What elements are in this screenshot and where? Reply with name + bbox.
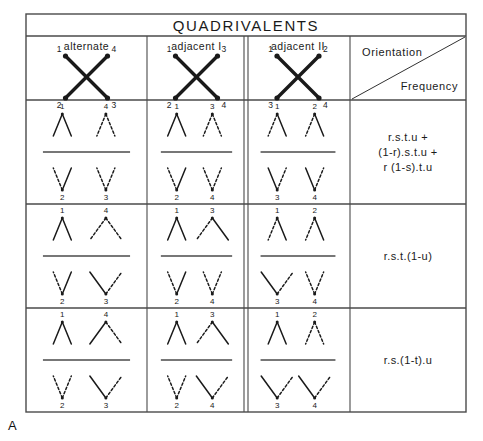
chromosome-number-label: 4 <box>104 206 109 215</box>
chromosome-number-label: 1 <box>60 206 65 215</box>
chromosome-number-label: 1 <box>60 310 65 319</box>
centromere <box>104 321 107 324</box>
pole-number-label: 3 <box>268 100 273 110</box>
chromosome-number-label: 1 <box>60 102 65 111</box>
chromosome-number-label: 3 <box>210 310 215 319</box>
centromere <box>211 217 214 220</box>
centromere <box>104 113 107 116</box>
pole-number-label: 1 <box>268 44 273 54</box>
frequency-label: Frequency <box>401 80 458 92</box>
chromosome-number-label: 3 <box>104 297 109 306</box>
centromere <box>211 113 214 116</box>
centromere <box>211 321 214 324</box>
chromosome-number-label: 1 <box>174 310 179 319</box>
frequency-cell-2: r.s.t.(1-u) <box>384 250 432 262</box>
centromere-knob <box>173 53 178 58</box>
centromere <box>175 321 178 324</box>
figure-title: QUADRIVALENTS <box>173 17 319 34</box>
chromosome-number-label: 1 <box>174 206 179 215</box>
frequency-formula-line: r (1-s).t.u <box>383 161 432 173</box>
centromere-knob <box>105 95 110 100</box>
chromosome-number-label: 3 <box>210 206 215 215</box>
frequency-formula-line: r.s.t.u + <box>388 131 428 143</box>
centromere <box>276 113 279 116</box>
centromere <box>313 397 316 400</box>
frequency-formula-line: (1-r).s.t.u + <box>378 146 437 158</box>
centromere-knob <box>63 53 68 58</box>
centromere-knob <box>274 53 279 58</box>
column-header-label: adjacent I <box>171 40 222 52</box>
centromere <box>276 217 279 220</box>
column-header-label: alternate <box>64 40 109 52</box>
chromosome-number-label: 2 <box>174 193 179 202</box>
frequency-formula-line: r.s.(1-t).u <box>384 354 432 366</box>
chromosome-number-label: 4 <box>312 297 317 306</box>
figure-canvas: QUADRIVALENTSOrientationFrequencyalterna… <box>0 0 483 441</box>
centromere <box>61 397 64 400</box>
centromere <box>175 113 178 116</box>
centromere-knob <box>105 53 110 58</box>
chromosome-number-label: 2 <box>312 206 317 215</box>
chromosome-number-label: 2 <box>60 401 65 410</box>
centromere <box>313 217 316 220</box>
pole-number-label: 3 <box>222 44 227 54</box>
pole-number-label: 4 <box>112 44 117 54</box>
pole-number-label: 2 <box>323 44 328 54</box>
centromere <box>313 113 316 116</box>
chromosome-number-label: 4 <box>104 310 109 319</box>
frequency-formula-line: r.s.t.(1-u) <box>384 250 432 262</box>
centromere <box>61 321 64 324</box>
centromere <box>61 293 64 296</box>
chromosome-number-label: 2 <box>60 297 65 306</box>
quadrivalents-figure: QUADRIVALENTSOrientationFrequencyalterna… <box>0 0 483 441</box>
centromere <box>211 397 214 400</box>
pole-number-label: 1 <box>57 44 62 54</box>
chromosome-number-label: 2 <box>312 102 317 111</box>
centromere <box>313 321 316 324</box>
chromosome-number-label: 3 <box>275 193 280 202</box>
centromere-knob <box>316 95 321 100</box>
centromere-knob <box>63 95 68 100</box>
panel-label: A <box>8 418 17 433</box>
centromere-knob <box>316 53 321 58</box>
chromosome-number-label: 3 <box>275 401 280 410</box>
chromosome-number-label: 1 <box>275 310 280 319</box>
chromosome-number-label: 3 <box>210 102 215 111</box>
chromosome-number-label: 2 <box>312 310 317 319</box>
pole-number-label: 3 <box>112 100 117 110</box>
centromere <box>276 293 279 296</box>
chromosome-number-label: 4 <box>210 297 215 306</box>
centromere-knob <box>173 95 178 100</box>
chromosome-number-label: 3 <box>104 401 109 410</box>
centromere <box>104 217 107 220</box>
centromere-knob <box>215 95 220 100</box>
centromere <box>313 189 316 192</box>
pole-number-label: 1 <box>167 44 172 54</box>
centromere <box>276 321 279 324</box>
chromosome-number-label: 2 <box>174 297 179 306</box>
column-header-label: adjacent II <box>271 40 325 52</box>
chromosome-number-label: 1 <box>275 102 280 111</box>
chromosome-number-label: 4 <box>312 193 317 202</box>
pole-number-label: 4 <box>222 100 227 110</box>
centromere <box>276 189 279 192</box>
centromere <box>61 217 64 220</box>
centromere <box>61 113 64 116</box>
centromere-knob <box>274 95 279 100</box>
chromosome-number-label: 2 <box>60 193 65 202</box>
chromosome-number-label: 4 <box>210 193 215 202</box>
centromere <box>175 293 178 296</box>
centromere <box>175 397 178 400</box>
chromosome-number-label: 1 <box>174 102 179 111</box>
chromosome-number-label: 2 <box>174 401 179 410</box>
chromosome-number-label: 3 <box>104 193 109 202</box>
centromere <box>211 189 214 192</box>
centromere <box>276 397 279 400</box>
centromere <box>175 189 178 192</box>
orientation-label: Orientation <box>362 46 422 58</box>
chromosome-number-label: 3 <box>275 297 280 306</box>
centromere <box>313 293 316 296</box>
chromosome-number-label: 1 <box>275 206 280 215</box>
centromere <box>104 397 107 400</box>
chromosome-number-label: 4 <box>210 401 215 410</box>
